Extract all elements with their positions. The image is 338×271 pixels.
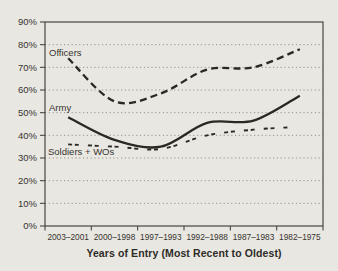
x-tick-label: 1987–1983	[233, 232, 275, 242]
x-tick-label: 2000–1998	[94, 232, 136, 242]
y-tick-label: 30%	[18, 152, 38, 163]
x-tick-label: 1982–1975	[279, 232, 321, 242]
plot-border	[45, 22, 323, 226]
series-label-officers: Officers	[49, 47, 82, 58]
y-tick-label: 70%	[18, 62, 38, 73]
x-axis-title: Years of Entry (Most Recent to Oldest)	[45, 247, 323, 259]
series-label-soldiers-wos: Soldiers + WOs	[48, 146, 114, 157]
series-line-officers	[68, 49, 300, 103]
y-tick-label: 50%	[18, 107, 38, 118]
line-chart-plot: 0%10%20%30%40%50%60%70%80%90%2003–200120…	[0, 0, 338, 271]
series-line-army	[68, 96, 300, 148]
x-tick-label: 1992–1988	[186, 232, 228, 242]
series-label-army: Army	[49, 102, 71, 113]
scanned-line-chart-figure: 0%10%20%30%40%50%60%70%80%90%2003–200120…	[0, 0, 338, 271]
y-tick-label: 90%	[18, 16, 38, 27]
x-tick-label: 2003–2001	[47, 232, 89, 242]
y-tick-label: 20%	[18, 175, 38, 186]
y-tick-label: 10%	[18, 198, 38, 209]
x-tick-label: 1997–1993	[140, 232, 182, 242]
y-tick-label: 80%	[18, 39, 38, 50]
y-tick-label: 0%	[23, 220, 37, 231]
y-tick-label: 60%	[18, 84, 38, 95]
y-tick-label: 40%	[18, 130, 38, 141]
